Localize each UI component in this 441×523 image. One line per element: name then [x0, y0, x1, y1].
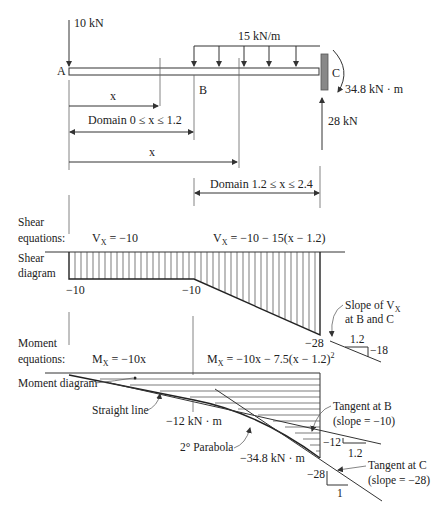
moment-eq2: MX = −10x − 7.5(x − 1.2)2: [207, 351, 335, 368]
moment-equations-label-1: Moment: [18, 337, 58, 349]
moment-eq1: MX = −10x: [92, 352, 146, 368]
label-b: B: [199, 83, 207, 97]
domain-annotations: x Domain 0 ≤ x ≤ 1.2 x Domain 1.2 ≤ x ≤ …: [69, 80, 320, 234]
tangent-c-rise: −28: [307, 468, 325, 480]
slope-note-1: Slope of VX: [345, 299, 401, 314]
shear-diagram-label-2: diagram: [18, 267, 56, 280]
x2-label: x: [149, 145, 155, 159]
tangent-b-triangle: [343, 438, 366, 443]
shear-value-a: −10: [66, 283, 85, 297]
fixed-support: [321, 54, 328, 90]
moment-section: Moment equations: MX = −10x MX = −10x − …: [18, 337, 430, 501]
moment-value-b: −12 kN · m: [166, 414, 222, 428]
beam-body: [69, 68, 319, 75]
straight-line-label: Straight line: [92, 404, 149, 417]
moment-value-c: −34.8 kN · m: [240, 451, 305, 465]
shear-eq2: VX = −10 − 15(x − 1.2): [213, 231, 326, 247]
shear-diagram-label-1: Shear: [18, 252, 44, 264]
shear-eq1: VX = −10: [92, 231, 138, 247]
tangent-c-run: 1: [337, 487, 343, 499]
x1-label: x: [110, 89, 116, 103]
tangent-c-label-2: (slope = −28): [368, 474, 430, 487]
label-a: A: [57, 64, 66, 78]
shear-value-b: −10: [182, 283, 201, 297]
parabola-label: 2° Parabola: [180, 441, 233, 453]
shear-equations-label-1: Shear: [18, 216, 44, 228]
reaction-moment-label: 34.8 kN · m: [345, 82, 404, 96]
tangent-c-label-1: Tangent at C: [368, 459, 427, 472]
shear-moment-diagram: 10 kN A 15 kN/m C 34.8 kN · m 28 kN B: [0, 0, 441, 523]
distributed-load-label: 15 kN/m: [238, 29, 281, 43]
reaction-force-label: 28 kN: [328, 114, 358, 128]
moment-diagram-label: Moment diagram: [18, 377, 98, 390]
tangent-b-label-1: Tangent at B: [333, 400, 392, 413]
shear-value-c: −28: [305, 336, 324, 350]
tangent-c-triangle: [327, 471, 348, 485]
slope-run: 1.2: [350, 333, 365, 345]
tangent-b-label-2: (slope = −10): [333, 415, 395, 428]
slope-note-2: at B and C: [345, 313, 394, 325]
domain1-label: Domain 0 ≤ x ≤ 1.2: [88, 113, 182, 127]
label-c: C: [332, 66, 340, 80]
tangent-b-rise: −12: [323, 436, 341, 448]
point-load-label: 10 kN: [74, 16, 104, 30]
tangent-b-line: [110, 383, 381, 444]
domain2-label: Domain 1.2 ≤ x ≤ 2.4: [210, 177, 313, 191]
distributed-load: [194, 46, 320, 66]
slope-rise: −18: [370, 344, 388, 356]
slope-note-leader: [332, 305, 343, 336]
beam-section: 10 kN A 15 kN/m C 34.8 kN · m 28 kN B: [57, 16, 404, 168]
shear-equations-label-2: equations:: [18, 232, 65, 245]
tangent-b-run: 1.2: [348, 447, 363, 459]
moment-equations-label-2: equations:: [18, 353, 65, 366]
